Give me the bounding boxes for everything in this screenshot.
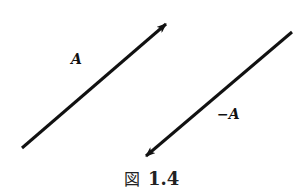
figure-prefix: 図 bbox=[124, 170, 140, 189]
figure-number: 1.4 bbox=[148, 168, 179, 189]
vector-neg-a-label: −A bbox=[217, 106, 240, 122]
figure-caption: 図1.4 bbox=[124, 166, 179, 190]
vector-neg-a-arrow bbox=[146, 32, 292, 156]
vector-a-arrow bbox=[22, 24, 166, 148]
vector-diagram bbox=[0, 0, 307, 194]
vector-a-label: A bbox=[71, 51, 82, 67]
